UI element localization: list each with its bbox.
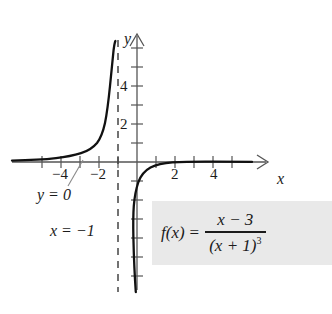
- formula-numerator: x − 3: [213, 210, 257, 231]
- formula-fraction: x − 3 (x + 1)3: [205, 210, 265, 255]
- y-tick-label-2: 2: [120, 117, 128, 132]
- function-formula: f(x) = x − 3 (x + 1)3: [161, 210, 266, 255]
- formula-lhs: f(x): [161, 223, 185, 243]
- function-graph: [0, 0, 332, 314]
- formula-denominator-exponent: 3: [257, 235, 262, 246]
- x-axis-label: x: [277, 171, 284, 187]
- y-equals-zero-leader: [68, 160, 83, 186]
- y-tick-label-4: 4: [120, 79, 128, 94]
- horizontal-asymptote-label: y = 0: [37, 187, 71, 203]
- y-axis-label: y: [124, 31, 131, 47]
- formula-denominator-base: (x + 1): [209, 236, 256, 255]
- formula-equals: =: [190, 223, 200, 243]
- vertical-asymptote-label: x = −1: [50, 223, 95, 239]
- formula-denominator: (x + 1)3: [205, 233, 265, 256]
- x-tick-label-neg2: −2: [90, 167, 106, 182]
- curve-left-branch: [12, 41, 115, 161]
- x-tick-label-2: 2: [171, 167, 179, 182]
- formula-panel: f(x) = x − 3 (x + 1)3: [152, 201, 332, 265]
- x-tick-label-4: 4: [210, 167, 218, 182]
- x-tick-label-neg4: −4: [52, 167, 68, 182]
